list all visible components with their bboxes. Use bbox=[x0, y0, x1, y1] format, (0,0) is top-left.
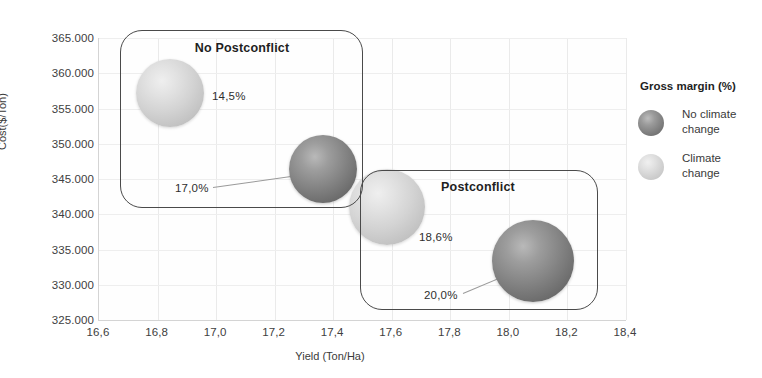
y-axis-tick-label: 355.000 bbox=[32, 103, 94, 115]
group-title-postconflict: Postconflict bbox=[441, 180, 515, 194]
x-axis-ticks: 16,616,817,017,217,417,617,818,018,218,4 bbox=[0, 326, 762, 346]
y-axis-ticks: 325.000330.000335.000340.000345.000350.0… bbox=[28, 0, 94, 378]
gridline-vertical bbox=[626, 38, 627, 320]
x-axis-tick-label: 17,4 bbox=[321, 326, 344, 338]
x-axis-tick-label: 18,4 bbox=[614, 326, 637, 338]
y-axis-tick-label: 325.000 bbox=[32, 314, 94, 326]
legend-item-label: No climate change bbox=[682, 107, 736, 137]
x-axis-tick-label: 18,0 bbox=[496, 326, 519, 338]
y-axis-tick-label: 335.000 bbox=[32, 244, 94, 256]
y-axis-tick-label: 340.000 bbox=[32, 208, 94, 220]
y-axis-title: Cost($/Ton) bbox=[0, 93, 8, 150]
legend: Gross margin (%) No climate changeClimat… bbox=[634, 80, 762, 196]
y-axis-tick-label: 330.000 bbox=[32, 279, 94, 291]
x-axis-title: Yield (Ton/Ha) bbox=[0, 350, 660, 362]
y-axis-tick-label: 350.000 bbox=[32, 138, 94, 150]
legend-title: Gross margin (%) bbox=[640, 80, 762, 92]
legend-item-no-climate-change[interactable]: No climate change bbox=[634, 108, 762, 152]
legend-item-label: Climate change bbox=[682, 151, 721, 181]
legend-swatch-icon bbox=[638, 110, 664, 136]
x-axis-tick-label: 17,2 bbox=[262, 326, 285, 338]
group-title-no-postconflict: No Postconflict bbox=[195, 41, 290, 55]
x-axis-tick-label: 17,0 bbox=[204, 326, 227, 338]
y-axis-tick-label: 365.000 bbox=[32, 32, 94, 44]
x-axis-tick-label: 17,8 bbox=[438, 326, 461, 338]
group-box-no-postconflict bbox=[120, 30, 363, 208]
y-axis-tick-label: 345.000 bbox=[32, 173, 94, 185]
bubble-chart: 325.000330.000335.000340.000345.000350.0… bbox=[0, 0, 762, 378]
y-axis-tick-label: 360.000 bbox=[32, 67, 94, 79]
legend-item-climate-change[interactable]: Climate change bbox=[634, 152, 762, 196]
legend-swatch-icon bbox=[638, 154, 664, 180]
x-axis-tick-label: 17,6 bbox=[379, 326, 402, 338]
x-axis-tick-label: 18,2 bbox=[555, 326, 578, 338]
x-axis-tick-label: 16,8 bbox=[145, 326, 168, 338]
x-axis-tick-label: 16,6 bbox=[87, 326, 110, 338]
